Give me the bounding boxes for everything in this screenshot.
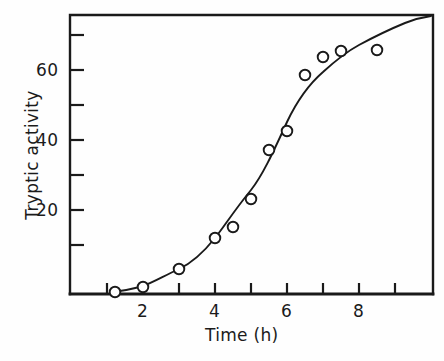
data-point [138,282,149,293]
figure-panel: 60 40 20 2 4 6 8 Tryptic activity Time (… [0,0,444,361]
data-point [174,264,185,275]
data-point [318,52,329,63]
x-tick-label-2: 2 [137,301,148,321]
page-scan-artifact [0,347,444,361]
y-axis-title: Tryptic activity [22,85,42,225]
data-point [336,46,347,57]
data-point [110,287,121,298]
x-axis-title: Time (h) [205,325,278,345]
data-markers [110,45,383,298]
data-point [282,126,293,137]
data-point [210,233,221,244]
data-point [372,45,383,56]
x-tick-label-6: 6 [281,301,292,321]
data-point [246,194,257,205]
data-point [264,145,275,156]
x-axis-ticks [107,283,395,294]
x-tick-label-8: 8 [353,301,364,321]
axis-frame [70,15,433,294]
x-tick-label-4: 4 [209,301,220,321]
data-point [228,222,239,233]
chart-canvas [0,0,444,361]
data-point [300,70,311,81]
y-axis-ticks [70,35,84,245]
y-tick-label-60: 60 [36,60,59,80]
